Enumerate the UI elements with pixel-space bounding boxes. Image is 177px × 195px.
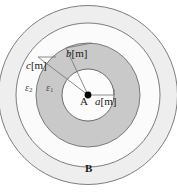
radius-label-a: a[m]: [95, 96, 116, 107]
coaxial-cable-figure: a[m] b[m] c[m] A B ε1 ε2: [0, 0, 177, 195]
outer-conductor-label-b: B: [85, 163, 92, 174]
radius-unit-c: [m]: [31, 59, 47, 71]
radius-unit-b: [m]: [72, 47, 88, 59]
dielectric1-label: ε1: [46, 83, 53, 94]
dielectric2-label: ε2: [25, 83, 32, 94]
radius-label-c: c[m]: [26, 60, 47, 71]
radius-label-b: b[m]: [66, 48, 87, 59]
inner-conductor-label-a: A: [80, 96, 88, 107]
radius-unit-a: [m]: [101, 95, 117, 107]
dielectric1-subscript: 1: [50, 86, 54, 94]
dielectric2-subscript: 2: [29, 86, 33, 94]
